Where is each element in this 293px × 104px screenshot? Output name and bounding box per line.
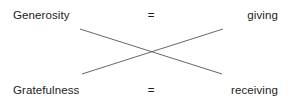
row-label-gratefulness: Gratefulness — [13, 84, 79, 97]
cross-line-descending — [80, 29, 222, 74]
cross-line-ascending — [82, 29, 223, 74]
equals-sign-top: = — [144, 9, 158, 22]
row-label-generosity: Generosity — [13, 9, 70, 22]
equals-sign-bottom: = — [144, 84, 158, 97]
row-value-receiving: receiving — [231, 84, 278, 97]
crossed-equivalence-diagram: Generosity = giving Gratefulness = recei… — [0, 0, 293, 104]
row-value-giving: giving — [247, 9, 278, 22]
